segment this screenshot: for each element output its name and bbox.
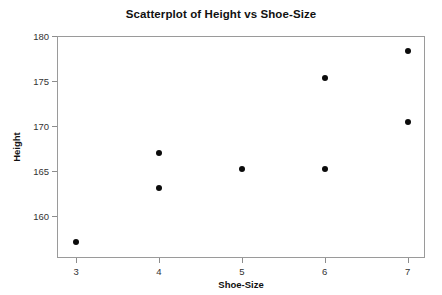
y-axis-tick-label: 175 <box>33 75 49 86</box>
y-axis-tick-label: 180 <box>33 31 49 42</box>
x-axis-tick-mark <box>159 258 160 263</box>
x-axis-tick-label: 6 <box>322 266 327 277</box>
y-axis-title: Height <box>11 132 22 162</box>
chart-title: Scatterplot of Height vs Shoe-Size <box>0 8 442 20</box>
x-axis-tick-mark <box>325 258 326 263</box>
plot-area <box>57 36 425 258</box>
data-point <box>239 166 245 172</box>
x-axis-tick-mark <box>76 258 77 263</box>
data-point <box>405 119 411 125</box>
x-axis-tick-mark <box>242 258 243 263</box>
y-axis-tick-label: 160 <box>33 210 49 221</box>
data-point <box>156 150 162 156</box>
data-point <box>73 239 79 245</box>
x-axis-tick-label: 5 <box>239 266 244 277</box>
x-axis-tick-mark <box>408 258 409 263</box>
x-axis-tick-label: 4 <box>156 266 161 277</box>
x-axis-tick-label: 3 <box>73 266 78 277</box>
data-point <box>405 48 411 54</box>
y-axis-tick-label: 165 <box>33 165 49 176</box>
y-axis-tick-label: 170 <box>33 120 49 131</box>
data-point <box>322 166 328 172</box>
x-axis-title: Shoe-Size <box>57 279 425 290</box>
data-point <box>156 185 162 191</box>
data-point <box>322 75 328 81</box>
scatterplot-figure: Scatterplot of Height vs Shoe-Size Heigh… <box>0 0 442 295</box>
x-axis-tick-label: 7 <box>405 266 410 277</box>
